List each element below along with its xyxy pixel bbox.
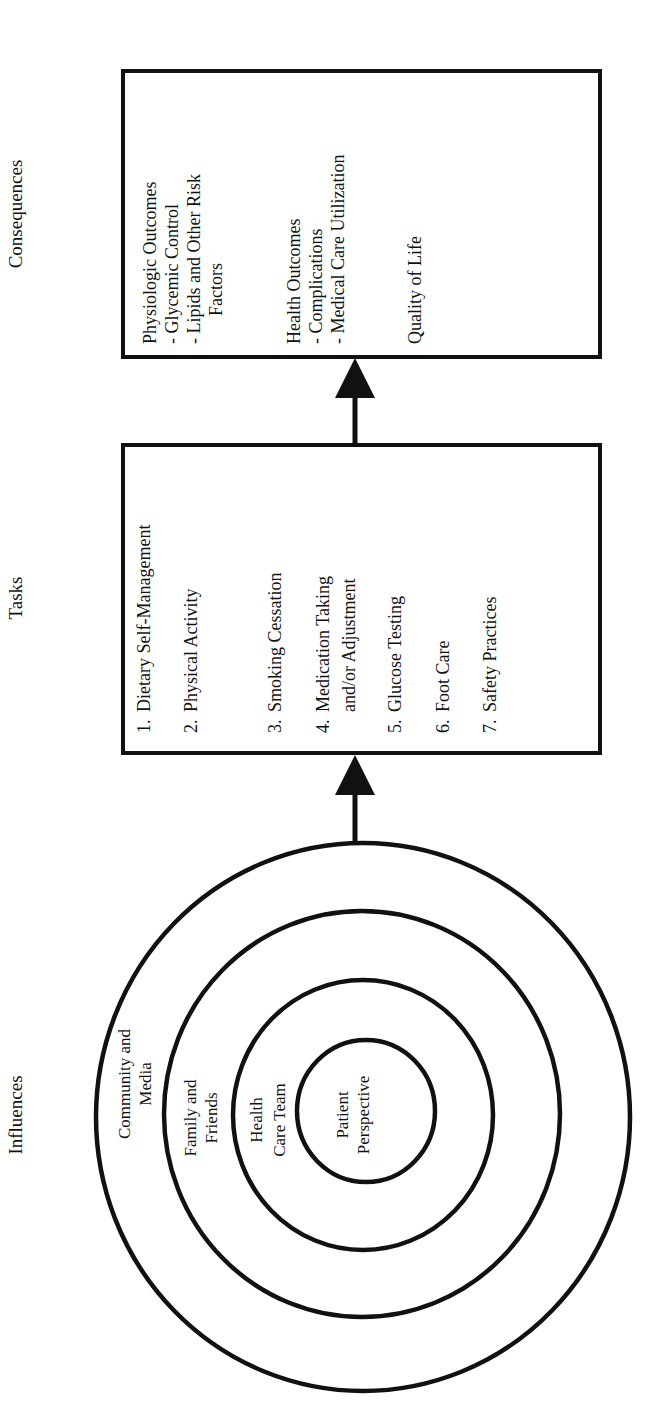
ring-label: Health [247,1097,266,1143]
consequence-line: - Medical Care Utilization [328,155,348,344]
task-number: 2. [181,720,201,734]
ring-label: Family and [181,1079,200,1156]
tasks-list: 1. Dietary Self-Management 2. Physical A… [134,525,500,733]
task-number: 7. [480,720,500,734]
heading-tasks: Tasks [5,576,26,619]
task-label: Smoking Cessation [265,572,285,712]
diagram-canvas: Consequences Tasks Influences Physiologi… [0,0,655,1421]
arrow-influences-to-tasks [335,755,375,843]
ring-label: Media [136,1062,155,1106]
ring-label: Community and [115,1028,134,1139]
arrow-tasks-to-consequences [335,358,375,443]
task-label: Glucose Testing [385,596,405,712]
consequence-line: - Glycemic Control [162,204,182,344]
consequence-line: - Complications [306,229,326,345]
consequence-line: - Lipids and Other Risk [184,174,204,344]
task-number: 5. [385,720,405,734]
task-label: Foot Care [433,640,453,712]
task-label: Medication Taking [313,576,333,712]
task-number: 3. [265,720,285,734]
heading-consequences: Consequences [5,160,26,269]
task-number: 6. [433,720,453,734]
task-label: Dietary Self-Management [134,525,154,712]
task-label: and/or Adjustment [339,579,359,713]
consequences-text: Physiologic Outcomes - Glycemic Control … [140,155,425,344]
task-label: Safety Practices [480,597,500,712]
consequence-line: Health Outcomes [284,219,304,344]
task-label: Physical Activity [181,589,201,713]
task-number: 1. [134,720,154,734]
ring-label: Care Team [270,1083,289,1157]
ring-label: Perspective [354,1076,373,1154]
heading-influences: Influences [5,1075,26,1154]
task-number: 4. [313,720,333,734]
consequence-line: Quality of Life [405,236,425,344]
consequence-line: Factors [206,263,226,316]
consequence-line: Physiologic Outcomes [140,182,160,345]
ring-label: Friends [202,1093,221,1144]
ring-label: Patient [333,1091,352,1138]
